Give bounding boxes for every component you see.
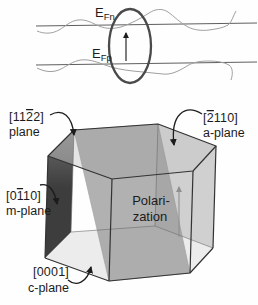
efn-label: EFn <box>95 5 115 22</box>
figure-canvas: EFn EFp Polari- zation [1122] plane [211 <box>0 0 258 305</box>
semipolar-plane-miller-label: [1122] <box>9 110 44 124</box>
m-plane-caption: m-plane <box>6 204 51 218</box>
semipolar-miller-post: 2] <box>33 110 44 124</box>
efn-sub: Fn <box>104 11 115 22</box>
semipolar-plane-leader-arrow <box>50 112 74 135</box>
efn-main: E <box>95 5 104 20</box>
a-plane-miller-barred-digit: 2 <box>207 111 214 125</box>
c-plane-miller-post: [0001] <box>33 265 69 279</box>
semipolar-miller-pre: [11 <box>9 110 26 124</box>
a-plane-miller-label: [2110] <box>203 111 238 125</box>
c-plane-caption: c-plane <box>28 281 69 295</box>
efp-sub: Fp <box>101 52 112 63</box>
polarization-label-line2: zation <box>133 209 168 224</box>
a-plane-caption: a-plane <box>203 126 245 140</box>
band-diagram: EFn EFp <box>36 5 257 83</box>
m-plane-miller-label: [0110] <box>6 189 41 203</box>
semipolar-miller-barred-digit: 2 <box>26 110 33 124</box>
crystal-diagram: Polari- zation [1122] plane [2110] a-pla… <box>6 110 245 295</box>
highlight-ellipse <box>109 9 151 83</box>
figure: EFn EFp Polari- zation [1122] plane [211 <box>0 0 258 305</box>
m-plane-miller-post: 10] <box>23 189 41 203</box>
polarization-label-line1: Polari- <box>132 193 170 208</box>
a-plane-miller-post: 110] <box>214 111 238 125</box>
efp-main: E <box>92 46 101 61</box>
semipolar-plane-caption: plane <box>9 125 40 139</box>
m-plane-miller-pre: [0 <box>6 189 17 203</box>
c-plane-miller-label: [0001] <box>33 265 69 279</box>
band-fluctuation-curve-upper <box>37 9 236 33</box>
